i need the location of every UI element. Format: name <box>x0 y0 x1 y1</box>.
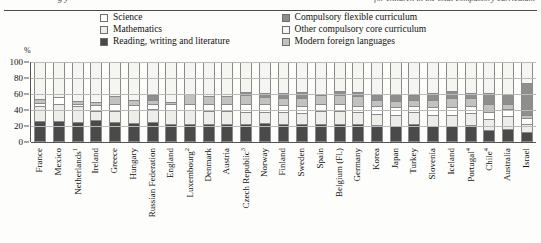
bar-column[interactable] <box>237 62 256 142</box>
stacked-bar[interactable] <box>203 62 215 142</box>
bar-segment[interactable] <box>259 97 271 104</box>
bar-column[interactable] <box>255 62 274 142</box>
bar-segment[interactable] <box>53 121 65 142</box>
bar-segment[interactable] <box>502 116 514 130</box>
bar-segment[interactable] <box>427 115 439 126</box>
bar-column[interactable] <box>50 62 69 142</box>
bar-segment[interactable] <box>184 94 196 104</box>
bar-segment[interactable] <box>278 98 290 105</box>
stacked-bar[interactable] <box>352 62 364 142</box>
stacked-bar[interactable] <box>184 62 196 142</box>
bar-segment[interactable] <box>72 122 84 142</box>
bar-column[interactable] <box>442 62 461 142</box>
stacked-bar[interactable] <box>165 62 177 142</box>
bar-segment[interactable] <box>334 111 346 124</box>
bar-segment[interactable] <box>240 62 252 92</box>
bar-column[interactable] <box>424 62 443 142</box>
bar-segment[interactable] <box>390 115 402 126</box>
bar-segment[interactable] <box>90 62 102 102</box>
bar-column[interactable] <box>499 62 518 142</box>
bar-segment[interactable] <box>221 62 233 96</box>
stacked-bar[interactable] <box>390 62 402 142</box>
bar-segment[interactable] <box>165 62 177 102</box>
bar-segment[interactable] <box>502 94 514 104</box>
bar-segment[interactable] <box>446 126 458 142</box>
bar-segment[interactable] <box>278 105 290 112</box>
stacked-bar[interactable] <box>128 62 140 142</box>
bar-segment[interactable] <box>465 98 477 106</box>
bar-segment[interactable] <box>446 62 458 91</box>
bar-segment[interactable] <box>128 110 140 123</box>
bar-segment[interactable] <box>72 62 84 101</box>
bar-segment[interactable] <box>278 124 290 142</box>
bar-segment[interactable] <box>109 96 121 104</box>
bar-column[interactable] <box>368 62 387 142</box>
bar-segment[interactable] <box>483 112 495 119</box>
bar-segment[interactable] <box>296 98 308 106</box>
bar-segment[interactable] <box>221 96 233 103</box>
bar-segment[interactable] <box>165 110 177 124</box>
bar-segment[interactable] <box>446 115 458 126</box>
bar-segment[interactable] <box>296 124 308 142</box>
bar-column[interactable] <box>405 62 424 142</box>
bar-column[interactable] <box>31 62 50 142</box>
bar-segment[interactable] <box>240 112 252 124</box>
bar-segment[interactable] <box>34 121 46 142</box>
bar-segment[interactable] <box>483 119 495 130</box>
stacked-bar[interactable] <box>259 62 271 142</box>
bar-segment[interactable] <box>278 112 290 124</box>
bar-column[interactable] <box>218 62 237 142</box>
bar-segment[interactable] <box>147 109 159 122</box>
bar-segment[interactable] <box>521 62 533 83</box>
stacked-bar[interactable] <box>240 62 252 142</box>
bar-segment[interactable] <box>334 95 346 105</box>
bar-segment[interactable] <box>109 111 121 122</box>
bar-segment[interactable] <box>259 112 271 123</box>
bar-column[interactable] <box>480 62 499 142</box>
bar-column[interactable] <box>162 62 181 142</box>
bar-segment[interactable] <box>315 111 327 124</box>
bar-segment[interactable] <box>352 96 364 106</box>
bar-segment[interactable] <box>352 112 364 124</box>
stacked-bar[interactable] <box>72 62 84 142</box>
bar-column[interactable] <box>68 62 87 142</box>
stacked-bar[interactable] <box>278 62 290 142</box>
stacked-bar[interactable] <box>483 62 495 142</box>
stacked-bar[interactable] <box>446 62 458 142</box>
bar-segment[interactable] <box>296 113 308 124</box>
bar-segment[interactable] <box>371 114 383 125</box>
bar-segment[interactable] <box>53 104 65 122</box>
stacked-bar[interactable] <box>296 62 308 142</box>
bar-column[interactable] <box>461 62 480 142</box>
bar-column[interactable] <box>517 62 536 142</box>
bar-segment[interactable] <box>427 100 439 107</box>
bar-segment[interactable] <box>502 129 514 142</box>
bar-segment[interactable] <box>465 113 477 125</box>
bar-column[interactable] <box>274 62 293 142</box>
bar-column[interactable] <box>386 62 405 142</box>
bar-segment[interactable] <box>390 126 402 142</box>
bar-segment[interactable] <box>240 95 252 104</box>
bar-segment[interactable] <box>427 126 439 142</box>
bar-segment[interactable] <box>352 124 364 142</box>
bar-column[interactable] <box>312 62 331 142</box>
bar-segment[interactable] <box>521 124 533 132</box>
stacked-bar[interactable] <box>221 62 233 142</box>
bar-segment[interactable] <box>221 111 233 124</box>
bar-segment[interactable] <box>109 122 121 142</box>
bar-column[interactable] <box>181 62 200 142</box>
bar-segment[interactable] <box>390 94 402 101</box>
bar-segment[interactable] <box>408 112 420 124</box>
stacked-bar[interactable] <box>53 62 65 142</box>
stacked-bar[interactable] <box>90 62 102 142</box>
bar-segment[interactable] <box>521 132 533 142</box>
stacked-bar[interactable] <box>34 62 46 142</box>
bar-segment[interactable] <box>203 96 215 104</box>
bar-segment[interactable] <box>184 110 196 124</box>
bar-column[interactable] <box>87 62 106 142</box>
bar-column[interactable] <box>143 62 162 142</box>
bar-segment[interactable] <box>465 125 477 142</box>
stacked-bar[interactable] <box>315 62 327 142</box>
bar-segment[interactable] <box>147 122 159 142</box>
bar-segment[interactable] <box>184 124 196 142</box>
